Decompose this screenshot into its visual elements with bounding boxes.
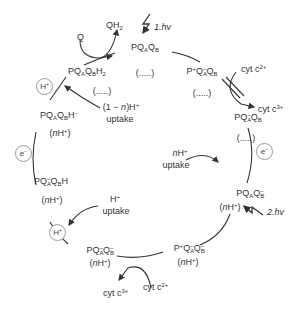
state-3-protons: (.....) [226, 133, 266, 143]
state-pqaqbh-minus: PQAQBH− [34, 110, 84, 120]
h-uptake-label-2: uptake [96, 206, 136, 216]
state-pqaqbh2: PQAQBH2 [62, 66, 112, 76]
proton-badge-top-left: H+ [36, 78, 53, 95]
cyt-c3-bottom-label: cyt c3+ [103, 288, 128, 298]
state-p-plus-qa-minus-qb-minus: P+QA−QB− [164, 243, 214, 253]
state-pqa-minus-qbh: PQA−QBH [28, 176, 74, 186]
state-pqa-minus-qb: PQA−QB [226, 112, 270, 122]
one-minus-n-uptake-label: (1 − n)H+ [96, 102, 146, 112]
state-pqa-minus-qb-minus: PQA−QB− [78, 245, 122, 255]
flash1-bolt-icon [143, 14, 150, 33]
qh2-label: QH2 [106, 20, 123, 30]
arrow-h-uptake [69, 206, 98, 225]
arrow-s5-s6 [117, 252, 163, 257]
state-pqaqb-protons: (.....) [125, 68, 165, 78]
arrow-s4-s5 [200, 214, 230, 245]
state-7-protons: (nH+) [32, 195, 72, 205]
state-8-protons: (nH+) [40, 128, 80, 138]
arrow-cyt-top [230, 72, 254, 107]
state-p-plus-qa-minus-qb: P+QA−QB [177, 66, 227, 76]
nh-uptake-label-2: uptake [156, 160, 196, 170]
state-4-protons: (nH+) [210, 202, 250, 212]
cyt-c2-bottom-label: cyt c2+ [143, 282, 168, 292]
state-6-protons: (nH+) [80, 258, 120, 268]
state-5-protons: (nH+) [168, 257, 208, 267]
arrow-qh2-out [100, 30, 117, 58]
state-pqaqb-minus: PQAQB− [228, 188, 272, 198]
flash1-label: 1.hv [154, 22, 171, 32]
q-label: Q [77, 32, 84, 42]
state-2-protons: (.....) [182, 88, 222, 98]
proton-badge-bottom-left: H+ [49, 224, 66, 241]
cyt-c2-top-label: cyt c2+ [241, 64, 266, 74]
state-pqaqb: PQAQB [125, 42, 165, 52]
one-minus-n-uptake-label-2: uptake [100, 114, 140, 124]
state-9-protons: (.....) [82, 86, 122, 96]
electron-badge-right: e− [256, 143, 273, 160]
quinone-cycle-diagram: 1.hv 2.hv Q QH2 PQAQB (.....) P+QA−QB (.… [0, 0, 305, 309]
electron-badge-left: e− [15, 145, 32, 162]
nh-uptake-label: nH+ [165, 148, 195, 158]
flash2-label: 2.hv [267, 207, 284, 217]
arrow-s1-s2 [172, 52, 200, 62]
h-uptake-label: H+ [100, 194, 130, 204]
arrow-s9-s1 [84, 53, 115, 65]
